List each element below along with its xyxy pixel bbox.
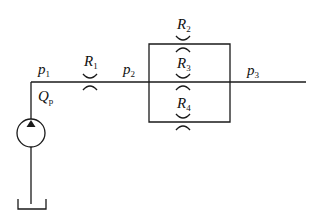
label-p3: p3 bbox=[246, 62, 260, 80]
label-qp: Qp bbox=[38, 88, 54, 106]
label-r1: R1 bbox=[83, 53, 98, 71]
label-r4: R4 bbox=[176, 95, 191, 113]
label-r3: R3 bbox=[176, 55, 191, 73]
label-p1: p1 bbox=[37, 61, 50, 79]
hydraulic-circuit-diagram: p1 Qp R1 p2 R2 R3 R4 p3 bbox=[0, 0, 319, 222]
tank-icon bbox=[18, 199, 46, 209]
label-p2: p2 bbox=[122, 61, 135, 79]
label-r2: R2 bbox=[176, 16, 191, 34]
pump-icon bbox=[17, 119, 45, 147]
